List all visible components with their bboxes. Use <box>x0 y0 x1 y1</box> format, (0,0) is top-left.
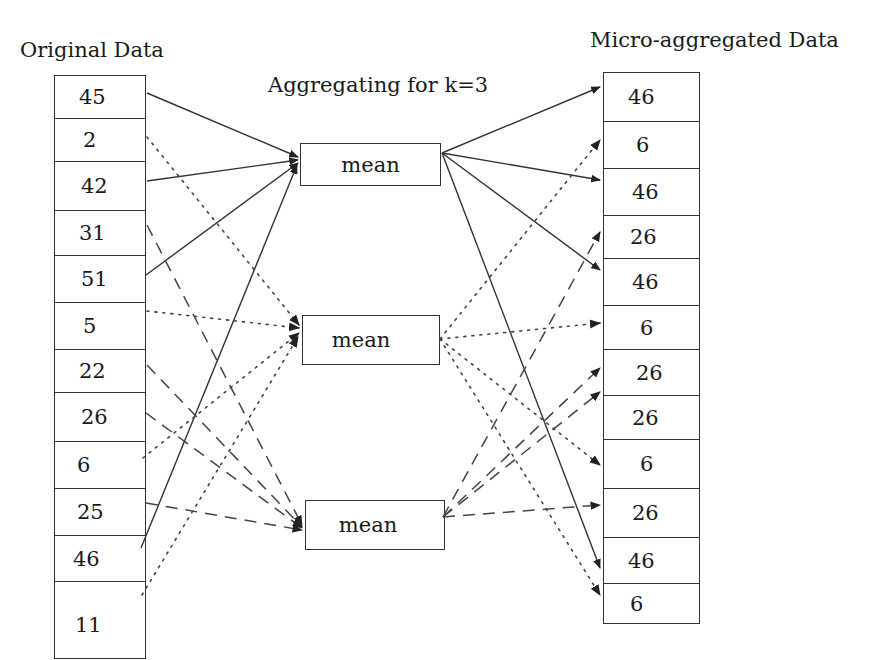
connection-arrows <box>0 0 896 660</box>
